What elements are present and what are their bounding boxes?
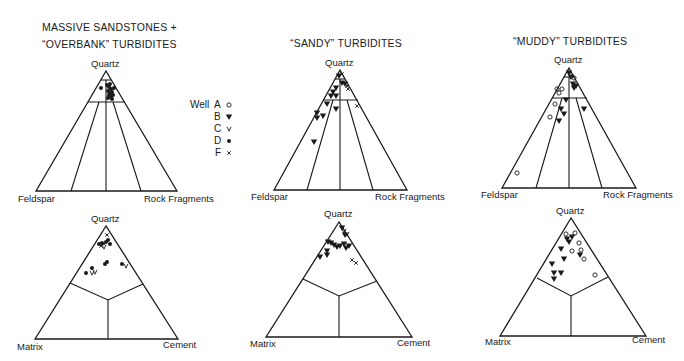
filled-triangle-down-marker-icon xyxy=(549,262,555,267)
filled-triangle-down-marker-icon xyxy=(563,98,569,103)
qmc-triangle-sandy xyxy=(266,222,412,337)
filled-triangle-down-marker-icon xyxy=(333,107,339,112)
filled-circle-marker-icon xyxy=(112,86,116,90)
cross-marker-icon xyxy=(227,151,231,155)
v-mark-marker-icon xyxy=(93,270,97,274)
label-cement: Cement xyxy=(163,339,197,350)
label-quartz: Quartz xyxy=(554,54,583,65)
filled-triangle-down-marker-icon xyxy=(311,140,317,145)
open-circle-marker-icon xyxy=(227,103,231,107)
filled-triangle-down-marker-icon xyxy=(324,102,330,107)
label-cement: Cement xyxy=(397,337,431,348)
label-quartz: Quartz xyxy=(91,213,120,224)
filled-triangle-down-marker-icon xyxy=(551,271,557,276)
filled-circle-marker-icon xyxy=(105,260,109,264)
filled-triangle-down-marker-icon xyxy=(226,115,232,120)
open-circle-marker-icon xyxy=(548,115,552,119)
label-feldspar: Feldspar xyxy=(481,189,518,200)
label-quartz: Quartz xyxy=(91,58,120,69)
title-sandy: “SANDY” TURBIDITES xyxy=(290,37,402,49)
filled-circle-marker-icon xyxy=(108,242,112,246)
v-mark-marker-icon xyxy=(227,127,231,131)
label-matrix: Matrix xyxy=(485,336,511,347)
filled-circle-marker-icon xyxy=(110,97,114,101)
filled-triangle-down-marker-icon xyxy=(551,277,557,282)
filled-triangle-down-marker-icon xyxy=(314,116,320,121)
open-circle-marker-icon xyxy=(582,257,586,261)
filled-triangle-down-marker-icon xyxy=(561,112,567,117)
filled-circle-marker-icon xyxy=(84,271,88,275)
data-points xyxy=(84,71,597,282)
label-matrix: Matrix xyxy=(17,341,43,352)
label-rock-fragments: Rock Fragments xyxy=(144,193,214,204)
filled-circle-marker-icon xyxy=(90,266,94,270)
legend-well-a: A xyxy=(214,99,221,110)
filled-circle-marker-icon xyxy=(99,86,103,90)
label-matrix: Matrix xyxy=(250,338,276,349)
open-circle-marker-icon xyxy=(557,91,561,95)
cross-marker-icon xyxy=(346,87,350,91)
open-circle-marker-icon xyxy=(570,249,574,253)
title-massive-line2: “OVERBANK” TURBIDITES xyxy=(42,38,177,50)
filled-circle-marker-icon xyxy=(111,93,115,97)
filled-triangle-down-marker-icon xyxy=(328,94,334,99)
cross-marker-icon xyxy=(354,261,358,265)
open-circle-marker-icon xyxy=(553,102,557,106)
filled-circle-marker-icon xyxy=(106,238,110,242)
title-massive-line1: MASSIVE SANDSTONES + xyxy=(42,21,177,33)
filled-circle-marker-icon xyxy=(120,262,124,266)
open-circle-marker-icon xyxy=(564,232,568,236)
filled-triangle-down-marker-icon xyxy=(581,107,587,112)
label-feldspar: Feldspar xyxy=(251,191,288,202)
cross-marker-icon xyxy=(105,233,109,237)
legend-title: Well xyxy=(190,99,209,110)
v-mark-marker-icon xyxy=(102,245,106,249)
qfr-triangle-sandy xyxy=(274,70,407,190)
qfr-triangle-muddy xyxy=(502,68,636,188)
filled-triangle-down-marker-icon xyxy=(320,114,326,119)
legend-well-d: D xyxy=(214,135,221,146)
open-circle-marker-icon xyxy=(579,248,583,252)
qfr-triangle-massive xyxy=(36,71,177,191)
title-muddy: “MUDDY” TURBIDITES xyxy=(513,35,627,47)
label-quartz: Quartz xyxy=(325,57,354,68)
open-circle-marker-icon xyxy=(577,241,581,245)
filled-circle-marker-icon xyxy=(227,139,231,143)
open-circle-marker-icon xyxy=(515,171,519,175)
label-rock-fragments: Rock Fragments xyxy=(603,189,673,200)
filled-triangle-down-marker-icon xyxy=(333,94,339,99)
open-circle-marker-icon xyxy=(573,231,577,235)
label-rock-fragments: Rock Fragments xyxy=(375,191,445,202)
filled-triangle-down-marker-icon xyxy=(558,271,564,276)
filled-triangle-down-marker-icon xyxy=(561,257,567,262)
filled-triangle-down-marker-icon xyxy=(324,253,330,258)
filled-circle-marker-icon xyxy=(108,82,112,86)
label-feldspar: Feldspar xyxy=(18,193,55,204)
filled-triangle-down-marker-icon xyxy=(566,240,572,245)
v-mark-marker-icon xyxy=(124,264,128,268)
legend-well-c: C xyxy=(214,123,221,134)
filled-circle-marker-icon xyxy=(106,96,110,100)
filled-triangle-down-marker-icon xyxy=(556,119,562,124)
filled-triangle-down-marker-icon xyxy=(558,247,564,252)
label-cement: Cement xyxy=(632,334,666,345)
filled-triangle-down-marker-icon xyxy=(317,255,323,260)
cross-marker-icon xyxy=(350,258,354,262)
label-quartz: Quartz xyxy=(324,208,353,219)
label-quartz: Quartz xyxy=(556,205,585,216)
legend: Well A B C D F xyxy=(190,99,232,158)
cross-marker-icon xyxy=(355,104,359,108)
legend-well-b: B xyxy=(214,111,221,122)
legend-well-f: F xyxy=(215,147,221,158)
open-circle-marker-icon xyxy=(560,87,564,91)
open-circle-marker-icon xyxy=(593,273,597,277)
ternary-figure: MASSIVE SANDSTONES + “OVERBANK” TURBIDIT… xyxy=(0,0,684,361)
